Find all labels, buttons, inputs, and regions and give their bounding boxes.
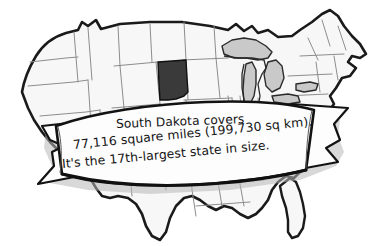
map-artboard: South Dakota covers 77,116 square miles … (0, 0, 380, 246)
south-dakota-highlight (158, 60, 188, 100)
illustration-canvas: South Dakota covers 77,116 square miles … (0, 0, 380, 246)
lake-ontario (296, 82, 318, 92)
banner-body (56, 101, 314, 185)
florida-peninsula (280, 178, 305, 238)
lake-huron (264, 60, 284, 92)
us-map-svg (0, 0, 380, 246)
